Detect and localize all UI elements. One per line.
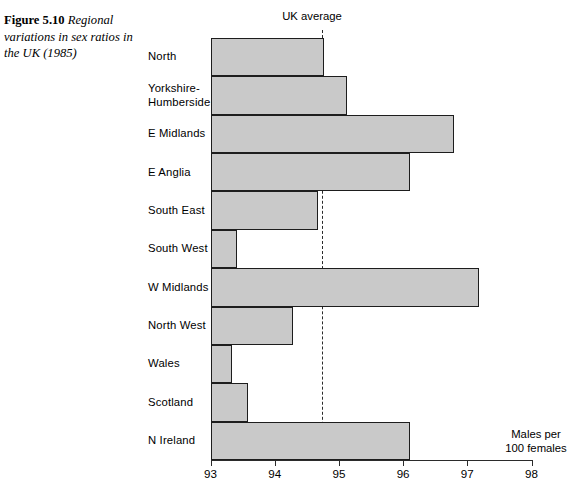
x-tick [403, 460, 404, 466]
x-tick [467, 460, 468, 466]
category-label: Scotland [148, 396, 210, 410]
uk-average-label: UK average [282, 10, 342, 22]
bar [211, 38, 325, 76]
x-tick [275, 460, 276, 466]
category-label: E Anglia [148, 166, 210, 180]
bar [211, 383, 248, 421]
bar [211, 191, 319, 229]
x-axis-title: Males per 100 females [496, 428, 576, 455]
bar [211, 230, 238, 268]
x-axis-line [211, 460, 532, 461]
x-tick-label: 95 [332, 467, 345, 480]
category-label: N Ireland [148, 434, 210, 448]
x-tick [211, 460, 212, 466]
bar [211, 307, 293, 345]
x-tick-label: 94 [268, 467, 281, 480]
bar [211, 115, 454, 153]
category-label: Yorkshire- Humberside [148, 82, 210, 109]
bar [211, 153, 411, 191]
category-label: South West [148, 242, 210, 256]
category-label: E Midlands [148, 127, 210, 141]
category-label: North [148, 50, 210, 64]
category-label: Wales [148, 357, 210, 371]
category-label: South East [148, 204, 210, 218]
category-label: W Midlands [148, 281, 210, 295]
bar-chart: UK average NorthYorkshire- HumbersideE M… [0, 0, 579, 482]
bar [211, 422, 411, 460]
x-tick [339, 460, 340, 466]
x-tick-label: 93 [204, 467, 217, 480]
x-tick-label: 97 [461, 467, 474, 480]
bar [211, 76, 347, 114]
bar [211, 268, 479, 306]
category-label: North West [148, 319, 210, 333]
x-tick-label: 98 [525, 467, 538, 480]
x-tick-label: 96 [397, 467, 410, 480]
x-tick [532, 460, 533, 466]
bar [211, 345, 233, 383]
